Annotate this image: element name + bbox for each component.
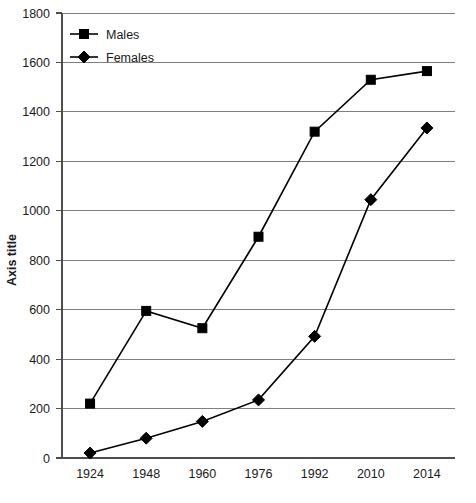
y-tick-label: 400 [29, 353, 50, 367]
y-tick-label: 1000 [22, 204, 50, 218]
data-point [310, 127, 319, 136]
data-point [254, 232, 263, 241]
y-tick-label: 1400 [22, 105, 50, 119]
chart-background [0, 0, 476, 503]
y-tick-label: 1800 [22, 7, 50, 21]
x-tick-label: 1976 [245, 467, 273, 481]
line-chart: 020040060080010001200140016001800 192419… [0, 0, 476, 503]
y-tick-label: 800 [29, 254, 50, 268]
y-tick-label: 0 [43, 452, 50, 466]
legend-marker-square [80, 30, 89, 39]
chart-canvas: 020040060080010001200140016001800 192419… [0, 0, 476, 503]
y-axis-title: Axis title [5, 234, 19, 286]
y-tick-label: 600 [29, 303, 50, 317]
data-point [422, 67, 431, 76]
data-point [198, 324, 207, 333]
x-tick-label: 2010 [357, 467, 385, 481]
data-point [366, 75, 375, 84]
x-tick-label: 1948 [132, 467, 160, 481]
y-tick-label: 1600 [22, 56, 50, 70]
y-tick-label: 1200 [22, 155, 50, 169]
x-tick-label: 2014 [413, 467, 441, 481]
data-point [86, 399, 95, 408]
x-tick-label: 1924 [76, 467, 104, 481]
data-point [142, 306, 151, 315]
y-tick-label: 200 [29, 402, 50, 416]
x-tick-label: 1960 [188, 467, 216, 481]
legend-label: Females [106, 51, 154, 65]
x-tick-label: 1992 [301, 467, 329, 481]
legend-label: Males [106, 28, 139, 42]
